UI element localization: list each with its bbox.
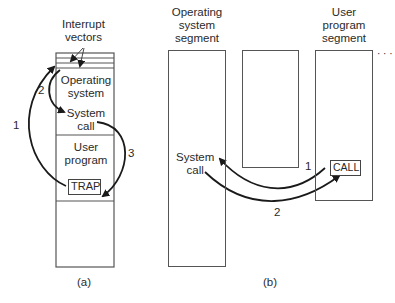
os-region-label: Operating system	[60, 74, 112, 100]
middle-segment-box	[242, 50, 299, 168]
label-line: segment	[315, 32, 373, 45]
label-line: System	[60, 107, 112, 120]
label-line: program	[315, 19, 373, 32]
system-call-label-b: System call	[176, 151, 214, 177]
label-line: User	[60, 141, 112, 154]
interrupt-vectors-label: Interrupt vectors	[62, 18, 105, 44]
label-line: vectors	[62, 31, 105, 44]
arrow-b1-label: 1	[305, 160, 311, 173]
call-instruction-box: CALL	[330, 160, 361, 176]
arrow-b2-label: 2	[274, 206, 280, 219]
trap-instruction-box: TRAP	[68, 179, 101, 195]
more-segments-ellipsis: · · ·	[377, 47, 393, 60]
label-line: Operating	[60, 74, 112, 87]
label-line: system	[168, 19, 226, 32]
label-line: Interrupt	[62, 18, 105, 31]
user-segment-label: User program segment	[315, 6, 373, 45]
label-line: call	[176, 164, 214, 177]
label-line: System	[176, 151, 214, 164]
user-program-label: User program	[60, 141, 112, 167]
system-call-label: System call	[60, 107, 112, 133]
caption-b: (b)	[263, 276, 277, 289]
arrow-3-label: 3	[128, 147, 134, 160]
label-line: User	[315, 6, 373, 19]
label-line: call	[60, 120, 112, 133]
os-segment-label: Operating system segment	[168, 6, 226, 45]
label-line: Operating	[168, 6, 226, 19]
label-line: program	[60, 154, 112, 167]
caption-a: (a)	[77, 276, 91, 289]
label-line: segment	[168, 32, 226, 45]
label-line: system	[60, 87, 112, 100]
arrow-2-label: 2	[38, 84, 44, 97]
user-segment-box	[315, 50, 373, 201]
arrow-1-label: 1	[13, 119, 19, 132]
